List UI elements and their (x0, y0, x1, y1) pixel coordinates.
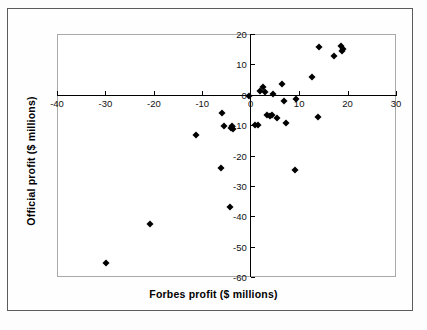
y-axis-tick-label: 10 (207, 59, 247, 70)
scatter-plot-figure: -40-30-20-10010203020100-10-20-30-40-50-… (0, 0, 427, 330)
y-axis-tick-label: 20 (207, 29, 247, 40)
x-axis-tick-label: 30 (391, 98, 402, 109)
x-axis-tick-label: -30 (99, 98, 113, 109)
x-axis-title: Forbes profit ($ millions) (0, 288, 427, 300)
x-axis-tick (105, 91, 106, 95)
x-axis-tick (396, 91, 397, 95)
x-axis-tick (202, 91, 203, 95)
x-axis-tick-label: 20 (342, 98, 353, 109)
x-axis-tick-label: -40 (50, 98, 64, 109)
y-axis-tick (251, 156, 255, 157)
y-axis-tick (251, 247, 255, 248)
x-axis-tick-label: -20 (147, 98, 161, 109)
y-axis-tick-label: -40 (207, 211, 247, 222)
y-axis-tick-label: -50 (207, 241, 247, 252)
y-axis-tick (251, 216, 255, 217)
y-axis-tick-label: -30 (207, 180, 247, 191)
x-axis-tick (299, 91, 300, 95)
y-axis-tick (251, 186, 255, 187)
y-axis-tick (251, 277, 255, 278)
y-axis-tick-label: -20 (207, 150, 247, 161)
y-axis-title: Official profit ($ millions) (25, 61, 37, 261)
y-axis-tick (251, 64, 255, 65)
x-axis-tick (154, 91, 155, 95)
x-axis-tick (348, 91, 349, 95)
x-axis-tick (57, 91, 58, 95)
y-axis-tick (251, 34, 255, 35)
y-axis-tick-label: -60 (207, 272, 247, 283)
y-axis-tick-label: 0 (207, 89, 247, 100)
